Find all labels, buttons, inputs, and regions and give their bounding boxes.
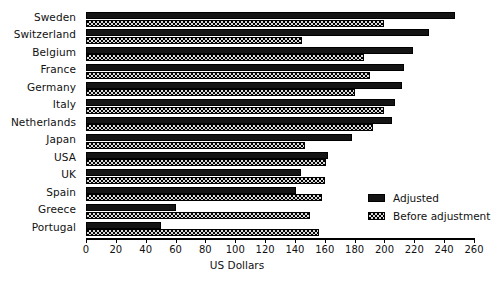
category-axis-labels: SwedenSwitzerlandBelgiumFranceGermanyIta… (0, 10, 80, 238)
bar-adjusted-france (86, 64, 404, 71)
bar-row (86, 116, 474, 133)
bar-row (86, 63, 474, 80)
legend-item-before-adjustment: Before adjustment (368, 210, 488, 225)
x-tick-label: 160 (315, 244, 334, 255)
x-tick (384, 238, 385, 243)
bar-adjusted-belgium (86, 47, 413, 54)
bar-row (86, 98, 474, 115)
bar-before-adjustment-italy (86, 107, 384, 114)
bar-row (86, 11, 474, 28)
x-tick (146, 238, 147, 243)
bar-before-adjustment-spain (86, 194, 322, 201)
x-tick-label: 0 (83, 244, 89, 255)
category-label-belgium: Belgium (32, 47, 76, 58)
bar-row (86, 81, 474, 98)
x-tick (414, 238, 415, 243)
bar-adjusted-germany (86, 82, 402, 89)
category-label-usa: USA (54, 152, 76, 163)
x-tick-label: 140 (285, 244, 304, 255)
bar-before-adjustment-switzerland (86, 37, 302, 44)
x-tick (355, 238, 356, 243)
category-label-uk: UK (61, 169, 76, 180)
x-tick-label: 220 (405, 244, 424, 255)
x-axis-title: US Dollars (0, 259, 474, 271)
bar-adjusted-uk (86, 169, 301, 176)
bar-row (86, 151, 474, 168)
x-tick-label: 40 (139, 244, 152, 255)
x-tick-label: 20 (109, 244, 122, 255)
bar-before-adjustment-japan (86, 142, 305, 149)
x-tick-label: 180 (345, 244, 364, 255)
x-tick-label: 80 (199, 244, 212, 255)
x-tick-label: 260 (464, 244, 483, 255)
bar-adjusted-netherlands (86, 117, 392, 124)
legend-label: Adjusted (393, 192, 439, 205)
x-tick-label: 120 (256, 244, 275, 255)
dotted-swatch-icon (368, 212, 385, 220)
category-label-sweden: Sweden (34, 12, 76, 23)
category-label-japan: Japan (46, 134, 76, 145)
bar-before-adjustment-sweden (86, 20, 384, 27)
x-tick (474, 238, 475, 243)
bar-before-adjustment-portugal (86, 229, 319, 236)
x-tick (235, 238, 236, 243)
category-label-germany: Germany (27, 82, 76, 93)
x-tick-label: 240 (435, 244, 454, 255)
bar-adjusted-spain (86, 187, 296, 194)
legend: Adjusted Before adjustment (368, 192, 488, 228)
x-tick (265, 238, 266, 243)
horizontal-bar-chart: SwedenSwitzerlandBelgiumFranceGermanyIta… (0, 0, 492, 283)
bar-before-adjustment-greece (86, 212, 310, 219)
bar-row (86, 28, 474, 45)
category-label-greece: Greece (38, 204, 76, 215)
bar-before-adjustment-usa (86, 159, 326, 166)
x-tick (176, 238, 177, 243)
bar-row (86, 133, 474, 150)
category-label-portugal: Portugal (32, 222, 76, 233)
category-label-switzerland: Switzerland (14, 29, 76, 40)
bar-adjusted-switzerland (86, 29, 429, 36)
x-tick-label: 60 (169, 244, 182, 255)
x-axis-line (86, 238, 474, 240)
x-tick (444, 238, 445, 243)
category-label-france: France (40, 64, 76, 75)
bar-before-adjustment-germany (86, 89, 355, 96)
bar-before-adjustment-france (86, 72, 370, 79)
category-label-spain: Spain (46, 187, 76, 198)
x-tick (325, 238, 326, 243)
legend-item-adjusted: Adjusted (368, 192, 488, 207)
bar-adjusted-greece (86, 204, 176, 211)
bar-before-adjustment-netherlands (86, 124, 373, 131)
x-tick-label: 200 (375, 244, 394, 255)
bar-row (86, 46, 474, 63)
bar-adjusted-sweden (86, 12, 455, 19)
x-tick-label: 100 (226, 244, 245, 255)
bar-before-adjustment-uk (86, 177, 325, 184)
x-tick (116, 238, 117, 243)
category-label-netherlands: Netherlands (11, 117, 76, 128)
category-label-italy: Italy (53, 99, 76, 110)
bar-adjusted-japan (86, 134, 352, 141)
bar-adjusted-portugal (86, 222, 161, 229)
x-tick (205, 238, 206, 243)
solid-black-swatch-icon (368, 194, 385, 202)
bar-row (86, 168, 474, 185)
x-tick (295, 238, 296, 243)
bar-adjusted-usa (86, 152, 328, 159)
x-tick (86, 238, 87, 243)
bar-before-adjustment-belgium (86, 54, 364, 61)
bar-adjusted-italy (86, 99, 395, 106)
legend-label: Before adjustment (393, 210, 490, 223)
